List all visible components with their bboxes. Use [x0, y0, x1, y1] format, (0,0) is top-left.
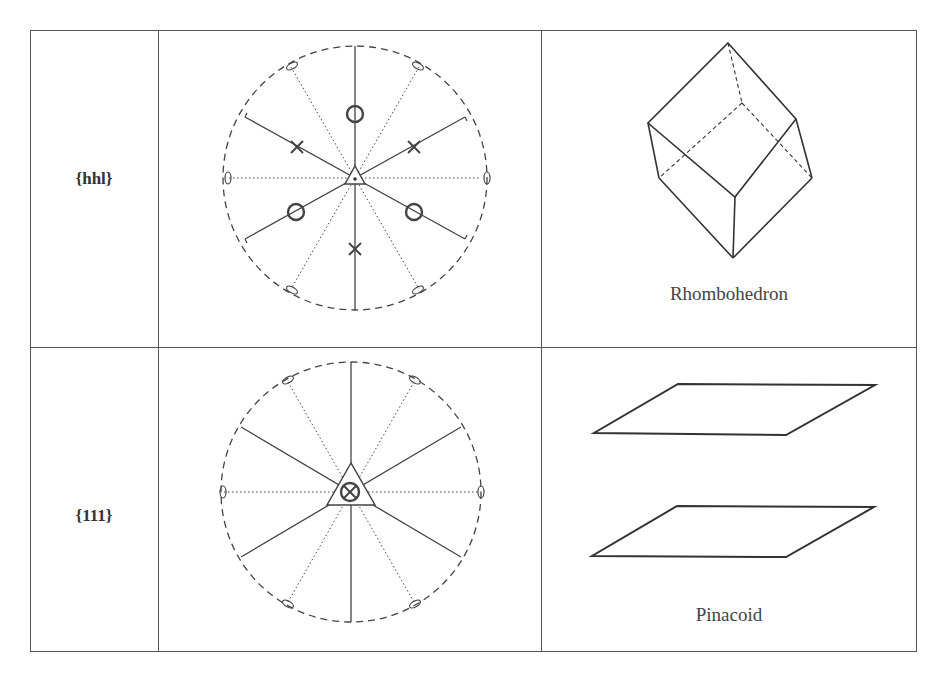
pinacoid-figure — [592, 384, 875, 557]
figures-layer — [0, 0, 946, 684]
stereogram-hhl — [223, 46, 490, 310]
rhombohedron-figure — [648, 43, 812, 258]
stereogram-111 — [220, 362, 484, 622]
pole-lower-2 — [288, 204, 304, 220]
pole-lower-3 — [406, 204, 422, 220]
